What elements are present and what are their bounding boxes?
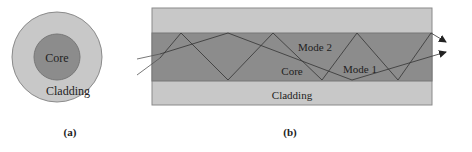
panel-a-cross-section: Core Cladding (a) — [12, 12, 102, 139]
core-label-b: Core — [281, 65, 303, 77]
mode2-label: Mode 2 — [298, 41, 332, 53]
cladding-label-a: Cladding — [46, 84, 90, 98]
cladding-label-b: Cladding — [272, 89, 313, 101]
panel-b-longitudinal: Mode 2 Core Mode 1 Cladding (b) — [137, 8, 446, 139]
core-label-a: Core — [45, 51, 68, 65]
fiber-diagram: Core Cladding (a) Mode 2 Core Mode 1 Cla… — [0, 0, 472, 152]
caption-a: (a) — [64, 126, 77, 139]
caption-b: (b) — [283, 126, 297, 139]
mode1-label: Mode 1 — [343, 63, 377, 75]
